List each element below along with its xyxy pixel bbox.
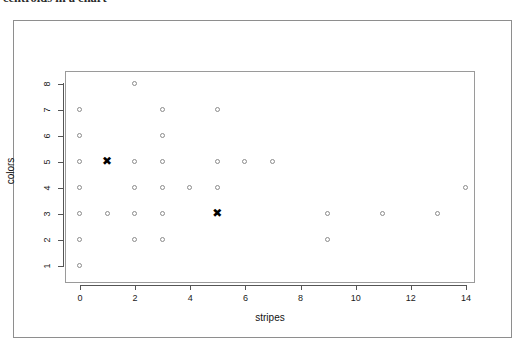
caption-strip: centroids in a chart [0,0,526,13]
caption-text: centroids in a chart [3,0,107,6]
figure-frame [13,20,512,338]
